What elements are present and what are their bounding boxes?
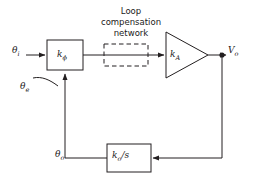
label-output-vo: Vo [228,46,238,57]
label-error-theta-e: θe [20,82,29,93]
label-block-vco-integrator-gain: ko/s [112,151,129,162]
block-diagram-figure: Loop compensation network θi θe θo kϕ kA… [0,0,261,180]
label-feedback-theta-o: θo [55,150,64,161]
label-block-amplifier-gain: kA [170,50,180,61]
label-input-theta-i: θi [12,46,20,57]
caption-loop-compensation-network: Loop compensation network [88,6,174,39]
label-block-phase-detector-gain: kϕ [57,50,67,61]
leader-line-theta-e [33,77,58,86]
